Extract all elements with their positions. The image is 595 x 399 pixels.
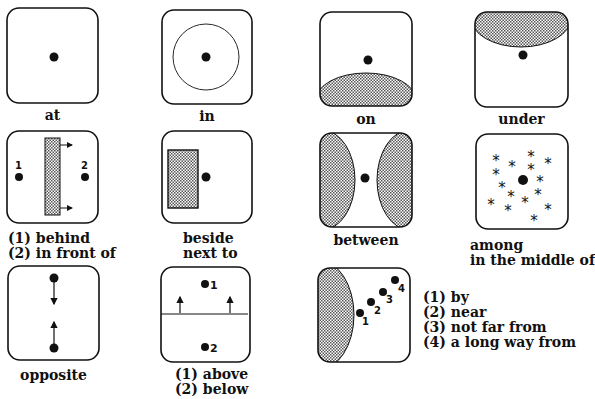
dot-icon [364, 56, 373, 65]
label-line: next to [183, 246, 238, 261]
label-between: between [320, 233, 412, 248]
dot-icon [361, 174, 370, 183]
svg-text:*: * [498, 179, 506, 197]
label-behind-in-front-of: (1) behind(2) in front of [8, 231, 116, 261]
panel-opposite [8, 266, 99, 360]
dot-icon [518, 175, 528, 185]
label-line: on [356, 111, 376, 127]
label-in: in [162, 109, 252, 124]
dot-icon [201, 280, 209, 288]
label-line: between [333, 232, 398, 248]
label-at: at [7, 108, 98, 123]
svg-text:*: * [527, 161, 535, 179]
svg-text:*: * [504, 202, 512, 220]
svg-text:*: * [487, 196, 495, 214]
label-line: beside [183, 231, 238, 246]
svg-text:*: * [521, 194, 529, 212]
dot-icon [50, 274, 59, 283]
svg-text:*: * [544, 201, 552, 219]
svg-text:*: * [508, 158, 516, 176]
dot-icon [519, 51, 528, 60]
panel-at [7, 8, 98, 103]
marker-1: 1 [362, 316, 369, 327]
svg-text:*: * [530, 212, 538, 230]
label-line: (1) by [423, 290, 576, 305]
dot-icon [202, 53, 211, 62]
marker-2: 2 [81, 160, 88, 171]
marker-1: 1 [15, 160, 22, 171]
dot-icon [201, 343, 209, 351]
label-under: under [475, 112, 568, 127]
label-on: on [320, 112, 412, 127]
label-line: in [199, 108, 215, 124]
label-line: among [470, 238, 595, 253]
label-beside: besidenext to [183, 231, 238, 261]
barrier-shape [45, 138, 60, 215]
panel-above-below: 1 2 [161, 267, 250, 362]
marker-3: 3 [386, 294, 393, 305]
label-line: in the middle of [470, 253, 595, 268]
label-line: opposite [20, 367, 87, 383]
object-shape [168, 150, 198, 208]
dot-icon [15, 173, 23, 181]
marker-4: 4 [398, 283, 405, 294]
label-line: (3) not far from [423, 320, 576, 335]
label-line: (2) in front of [8, 246, 116, 261]
dot-icon [202, 173, 211, 182]
panel-among: *** *** *** *** *** [476, 134, 568, 230]
marker-2: 2 [374, 305, 381, 316]
label-line: under [498, 111, 544, 127]
panel-beside [162, 131, 252, 223]
dot-icon [50, 53, 59, 62]
svg-text:*: * [534, 186, 542, 204]
label-line: at [45, 107, 61, 123]
dot-icon [81, 173, 89, 181]
label-distance: (1) by(2) near(3) not far from(4) a long… [423, 290, 576, 350]
svg-text:*: * [544, 155, 552, 173]
label-line: (1) above [175, 367, 248, 382]
panel-under [471, 0, 571, 107]
label-line: (4) a long way from [423, 335, 576, 350]
right-shape [377, 130, 443, 230]
asterisks-group: *** *** *** *** *** [487, 148, 552, 230]
label-line: (2) near [423, 305, 576, 320]
dot-icon [50, 344, 59, 353]
left-shape [289, 130, 355, 230]
surface-shape [471, 0, 571, 47]
label-among: amongin the middle of [470, 238, 595, 268]
marker-1: 1 [210, 279, 218, 292]
label-above-below: (1) above(2) below [175, 367, 248, 397]
label-opposite: opposite [8, 368, 99, 383]
panel-in [162, 10, 252, 104]
panel-behind-in-front-of: 1 2 [7, 131, 98, 223]
panel-between [289, 130, 443, 230]
marker-2: 2 [210, 342, 218, 355]
label-line: (2) below [175, 382, 248, 397]
label-line: (1) behind [8, 231, 116, 246]
panel-on [316, 12, 416, 127]
panel-distance: 1 2 3 4 [282, 260, 410, 370]
